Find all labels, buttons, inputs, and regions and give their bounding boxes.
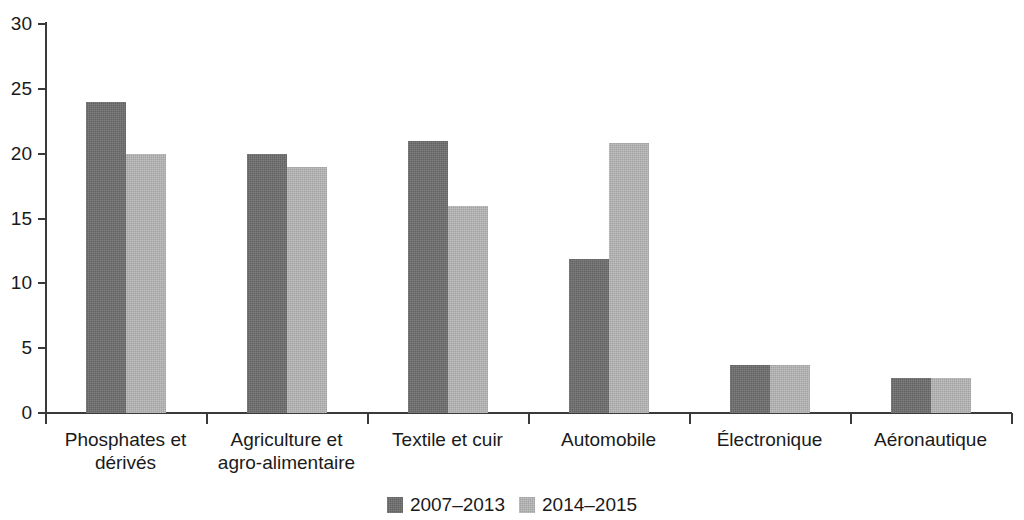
bar [448,206,488,413]
y-axis-tick-label: 5 [0,338,32,357]
x-axis-category-label: Agriculture etagro-alimentaire [206,428,367,474]
bar [730,365,770,413]
category-label-line: Aéronautique [850,428,1011,451]
bar [609,143,649,413]
x-axis-tick-mark [1011,413,1013,424]
y-axis-tick-label: 10 [0,273,32,292]
legend-swatch-icon [519,497,535,513]
bar [891,378,931,413]
category-label-line: dérivés [45,451,206,474]
y-axis-tick-label: 0 [0,403,32,422]
category-label-line: Phosphates et [45,428,206,451]
x-axis-category-label: Aéronautique [850,428,1011,451]
y-axis-tick-label: 25 [0,79,32,98]
bar [126,154,166,413]
category-label-line: Électronique [689,428,850,451]
bar [287,167,327,413]
category-label-line: Agriculture et [206,428,367,451]
chart-legend: 2007–20132014–2015 [0,494,1024,516]
legend-label: 2014–2015 [542,494,637,516]
x-axis-category-label: Textile et cuir [367,428,528,451]
plot-area [45,24,1010,413]
category-label-line: agro-alimentaire [206,451,367,474]
x-axis-category-label: Automobile [528,428,689,451]
legend-item: 2007–2013 [387,494,505,516]
bar [247,154,287,413]
x-axis-tick-mark [689,413,691,424]
category-label-line: Automobile [528,428,689,451]
x-axis-category-label: Phosphates etdérivés [45,428,206,474]
y-axis-tick-label: 20 [0,144,32,163]
x-axis-tick-mark [367,413,369,424]
category-label-line: Textile et cuir [367,428,528,451]
x-axis-tick-mark [206,413,208,424]
bar [569,259,609,413]
x-axis-tick-mark [528,413,530,424]
x-axis-tick-mark [850,413,852,424]
y-axis-tick-label: 15 [0,209,32,228]
bar [770,365,810,413]
legend-item: 2014–2015 [519,494,637,516]
legend-swatch-icon [387,497,403,513]
bar [931,378,971,413]
bar-chart: 051015202530 Phosphates etdérivésAgricul… [0,0,1024,520]
legend-label: 2007–2013 [410,494,505,516]
bar [408,141,448,413]
x-axis-category-label: Électronique [689,428,850,451]
bar [86,102,126,413]
x-axis-tick-mark [45,413,47,424]
y-axis-tick-label: 30 [0,14,32,33]
